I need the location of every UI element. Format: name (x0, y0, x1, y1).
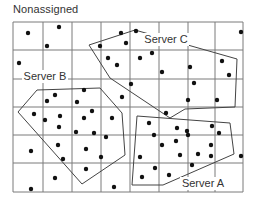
data-point (209, 154, 213, 158)
data-point (43, 118, 47, 122)
data-point (112, 185, 116, 189)
data-point (106, 56, 110, 60)
data-point (175, 126, 179, 130)
data-point (124, 41, 128, 45)
data-point (45, 44, 49, 48)
data-point (160, 70, 164, 74)
data-point (188, 65, 192, 69)
data-point (90, 109, 94, 113)
server-a-region (132, 116, 234, 185)
data-point (129, 82, 133, 86)
data-point (138, 56, 142, 60)
data-point (239, 154, 243, 158)
data-point (215, 98, 219, 102)
data-point (56, 143, 60, 147)
data-point (84, 167, 88, 171)
server-assignment-diagram: Server CServer BServer A (0, 0, 257, 203)
server-c-label: Server C (144, 33, 187, 45)
data-point (178, 153, 182, 157)
data-point (98, 44, 102, 48)
data-point (239, 30, 243, 34)
data-point (192, 81, 196, 85)
data-point (153, 166, 157, 170)
data-point (84, 147, 88, 151)
data-point (160, 143, 164, 147)
data-point (26, 31, 30, 35)
data-point (57, 125, 61, 129)
data-point (190, 163, 194, 167)
data-point (32, 112, 36, 116)
data-point (82, 116, 86, 120)
data-point (99, 155, 103, 159)
data-point (186, 133, 190, 137)
data-point (185, 129, 189, 133)
data-point (147, 121, 151, 125)
data-point (134, 29, 138, 33)
data-point (220, 59, 224, 63)
data-point (82, 88, 86, 92)
data-point (61, 157, 65, 161)
data-point (196, 152, 200, 156)
server-a-label: Server A (182, 177, 225, 189)
data-point (17, 61, 21, 65)
data-point (57, 25, 61, 29)
data-point (167, 173, 171, 177)
server-b-label: Server B (24, 70, 67, 82)
data-point (53, 93, 57, 97)
data-point (110, 116, 114, 120)
data-point (119, 31, 123, 35)
data-point (150, 51, 154, 55)
data-point (217, 131, 221, 135)
data-point (92, 131, 96, 135)
data-point (29, 187, 33, 191)
data-point (209, 143, 213, 147)
data-point (104, 135, 108, 139)
data-point (29, 149, 33, 153)
data-point (140, 175, 144, 179)
data-point (53, 176, 57, 180)
data-point (227, 73, 231, 77)
data-point (45, 99, 49, 103)
data-point (58, 114, 62, 118)
data-point (174, 139, 178, 143)
data-point (120, 95, 124, 99)
data-point (186, 98, 190, 102)
data-point (210, 124, 214, 128)
data-point (164, 111, 168, 115)
data-point (138, 155, 142, 159)
data-point (74, 130, 78, 134)
region-labels: Server CServer BServer A (22, 33, 226, 190)
data-point (75, 100, 79, 104)
data-point (152, 133, 156, 137)
data-point (115, 63, 119, 67)
